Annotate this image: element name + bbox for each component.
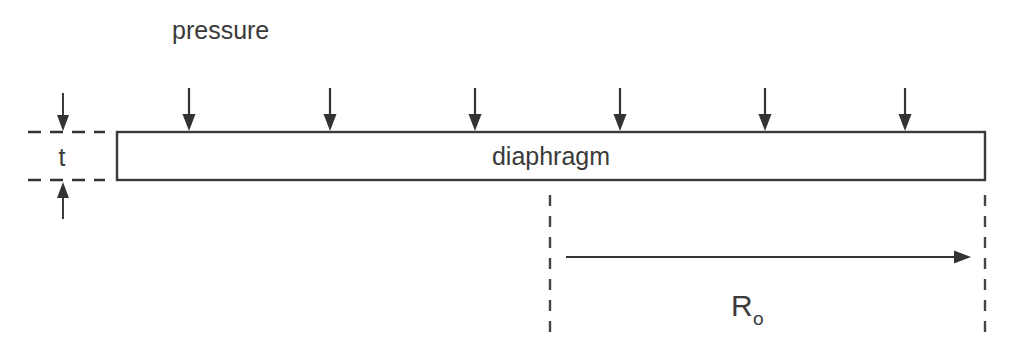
pressure-arrow [899, 88, 912, 131]
thickness-arrow-top [57, 93, 69, 131]
pressure-label: pressure [172, 16, 269, 44]
diaphragm-label: diaphragm [492, 142, 610, 170]
pressure-arrow [324, 88, 337, 131]
radius-arrow [566, 251, 971, 264]
radius-label-base: R [731, 289, 753, 322]
radius-label: R o [731, 289, 764, 329]
pressure-arrow-group [183, 88, 912, 131]
diagram-canvas: pressure [0, 0, 1013, 348]
radius-label-subscript: o [753, 308, 764, 329]
pressure-arrow [614, 88, 627, 131]
diaphragm-diagram: pressure [0, 0, 1013, 348]
thickness-label: t [59, 143, 66, 171]
pressure-arrow [759, 88, 772, 131]
thickness-arrow-bottom [57, 182, 69, 219]
pressure-arrow [469, 88, 482, 131]
pressure-arrow [183, 88, 196, 131]
